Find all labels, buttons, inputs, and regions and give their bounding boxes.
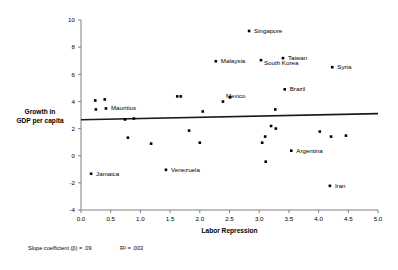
data-point-label: Argentina — [296, 147, 323, 154]
data-point — [90, 172, 93, 175]
data-point — [264, 135, 267, 138]
footnote-r2: R² = .003 — [120, 245, 143, 251]
data-point-label: Jamaica — [96, 170, 120, 177]
data-point — [133, 117, 136, 120]
scatter-chart: 1086420-2-40.00.51.01.52.02.53.03.54.04.… — [0, 0, 398, 270]
data-point-label: Singapore — [254, 27, 283, 34]
x-axis-title: Labor Repression — [201, 227, 257, 235]
data-point-label: Venezuela — [171, 166, 200, 173]
y-tick-label: 4 — [72, 98, 76, 105]
x-tick-label: 1.0 — [136, 215, 145, 222]
data-point-label: Syria — [337, 63, 352, 70]
data-point — [179, 95, 182, 98]
data-point-label: Malaysia — [221, 57, 246, 64]
data-point — [275, 127, 278, 130]
data-point — [345, 134, 348, 137]
data-point-label: Mauritius — [111, 104, 136, 111]
x-tick-label: 3.5 — [285, 215, 294, 222]
data-point — [329, 185, 332, 188]
x-tick-label: 2.5 — [225, 215, 234, 222]
data-point — [248, 30, 251, 33]
data-point — [260, 59, 263, 62]
data-point-label: Mexico — [226, 92, 246, 99]
chart-footnote: Slope coefficient (β) = .09R² = .003 — [28, 245, 143, 251]
x-tick-label: 5.0 — [374, 215, 383, 222]
y-axis-title-line2: GDP per capita — [16, 117, 63, 125]
y-tick-label: -4 — [69, 206, 75, 213]
data-point — [105, 107, 108, 110]
y-tick-label: 0 — [72, 152, 76, 159]
data-point — [201, 110, 204, 113]
point-labels: MauritiusJamaicaVenezuelaMexicoMalaysiaS… — [96, 27, 352, 189]
x-tick-label: 0.0 — [77, 215, 86, 222]
y-tick-label: -2 — [69, 179, 75, 186]
data-point-label: Taiwan — [288, 54, 308, 61]
y-tick-label: 2 — [72, 125, 76, 132]
y-tick-label: 10 — [68, 16, 75, 23]
data-point — [283, 88, 286, 91]
data-point — [176, 95, 179, 98]
data-point — [124, 118, 127, 121]
data-point — [127, 136, 130, 139]
data-point — [261, 141, 264, 144]
y-tick-label: 6 — [72, 71, 76, 78]
data-point — [165, 169, 168, 172]
data-point — [103, 98, 106, 101]
data-point — [188, 129, 191, 132]
data-point-label: Brazil — [290, 85, 305, 92]
data-point — [274, 108, 277, 111]
data-point — [330, 135, 333, 138]
data-point — [290, 149, 293, 152]
x-tick-label: 0.5 — [106, 215, 115, 222]
x-tick-label: 4.0 — [314, 215, 323, 222]
data-point — [95, 108, 98, 111]
x-tick-label: 1.5 — [166, 215, 175, 222]
footnote-slope: Slope coefficient (β) = .09 — [28, 245, 92, 251]
data-point — [199, 141, 202, 144]
data-point — [318, 130, 321, 133]
data-point-label: Iran — [335, 182, 346, 189]
data-point — [94, 99, 97, 102]
x-tick-label: 3.0 — [255, 215, 264, 222]
y-tick-label: 8 — [72, 43, 76, 50]
data-point — [264, 160, 267, 163]
data-point — [215, 60, 218, 63]
y-axis-title-line1: Growth in — [25, 108, 56, 115]
x-tick-label: 4.5 — [344, 215, 353, 222]
data-point — [222, 100, 225, 103]
data-point — [150, 142, 153, 145]
data-point — [331, 66, 334, 69]
x-tick-label: 2.0 — [195, 215, 204, 222]
data-point — [270, 125, 273, 128]
